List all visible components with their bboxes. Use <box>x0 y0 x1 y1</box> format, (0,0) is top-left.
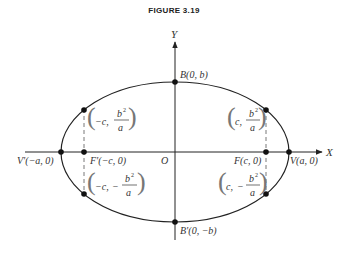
svg-text:b: b <box>125 173 130 184</box>
svg-text:−: − <box>112 181 119 192</box>
svg-text:): ) <box>137 167 146 196</box>
point-latus-upper-left <box>81 107 87 113</box>
svg-text:−c,: −c, <box>95 181 109 192</box>
svg-text:c,: c, <box>226 181 233 192</box>
svg-text:b: b <box>249 173 254 184</box>
origin-label: O <box>161 155 168 166</box>
label-B-prime: B′(0, −b) <box>180 225 217 237</box>
label-latus-lower-right: ( c, − b 2 a ) <box>218 167 268 198</box>
label-latus-upper-left: ( −c, b 2 a ) <box>87 102 137 133</box>
label-V-prime: V′(−a, 0) <box>17 155 54 167</box>
svg-text:): ) <box>128 102 137 131</box>
point-F-prime <box>81 149 87 155</box>
svg-text:2: 2 <box>255 172 258 178</box>
svg-text:a: a <box>250 187 255 198</box>
point-B <box>172 79 178 85</box>
label-latus-upper-right: ( c, b 2 a ) <box>227 102 267 133</box>
point-V-prime <box>58 149 64 155</box>
y-axis-label: Y <box>171 28 179 40</box>
point-latus-lower-left <box>81 191 87 197</box>
svg-text:): ) <box>258 102 267 131</box>
label-B: B(0, b) <box>180 69 208 81</box>
svg-text:2: 2 <box>131 172 134 178</box>
svg-text:−c,: −c, <box>95 116 109 127</box>
label-latus-lower-left: ( −c, − b 2 a ) <box>87 167 146 198</box>
ellipse-diagram: X Y B(0, b) B′(0, −b) V(a, 0) V′(−a, 0) … <box>0 0 348 255</box>
point-F <box>263 149 269 155</box>
svg-text:a: a <box>118 122 123 133</box>
x-axis-label: X <box>325 146 334 158</box>
label-V: V(a, 0) <box>290 155 318 167</box>
label-F-prime: F′(−c, 0) <box>89 155 127 167</box>
svg-text:a: a <box>126 187 131 198</box>
svg-text:b: b <box>249 108 254 119</box>
svg-text:2: 2 <box>123 107 126 113</box>
svg-text:): ) <box>259 167 268 196</box>
label-F: F(c, 0) <box>233 155 262 167</box>
point-V <box>286 149 292 155</box>
svg-text:a: a <box>250 122 255 133</box>
point-B-prime <box>172 219 178 225</box>
svg-text:−: − <box>237 181 244 192</box>
svg-text:c,: c, <box>235 116 242 127</box>
svg-text:b: b <box>117 108 122 119</box>
